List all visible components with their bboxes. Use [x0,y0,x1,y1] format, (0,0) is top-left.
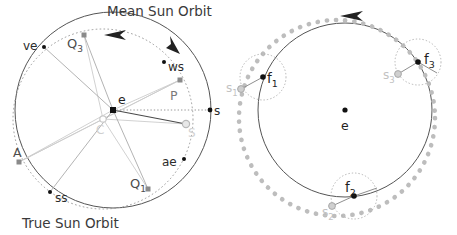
label-e-left: e [118,92,126,107]
label-s2-sub: 2 [328,212,333,222]
right-panel-group [238,11,441,219]
point-marker-s [208,108,213,113]
true-sun-dotted-path [239,20,435,216]
point-marker-ss [48,190,52,194]
mean-orbit-arrow-top [104,30,126,40]
point-marker-s1 [238,86,245,93]
label-e-right: e [341,118,349,133]
label-Q3: Q3 [67,36,83,54]
label-s1: s1 [226,81,238,98]
left-panel-group [13,12,212,209]
true-orbit-arrow-right [166,36,180,54]
label-C: C [96,123,104,137]
point-marker-e [110,107,116,113]
label-P: P [170,88,178,103]
label-f3: f3 [424,51,435,70]
point-marker-ws [162,60,166,64]
point-marker-f1 [260,74,266,80]
label-s3-sub: 3 [389,75,394,85]
point-marker-f3 [415,59,421,65]
label-S-left: S [188,126,196,140]
point-marker-ae [182,157,186,161]
point-marker-s2 [329,203,336,210]
label-s3: s3 [383,68,395,85]
label-s1-sub: 1 [232,88,237,98]
label-f3-sub: 3 [429,59,435,70]
label-ae: ae [162,155,177,169]
title-mean-sun-orbit: Mean Sun Orbit [107,3,212,19]
labels-group: Mean Sun Orbit True Sun Orbit ve ws ae s… [13,3,435,231]
point-marker-s3 [395,71,402,78]
label-ws: ws [168,60,184,74]
point-marker-ve [42,45,46,49]
label-Q1-sub: 1 [140,184,146,194]
astronomy-figure-svg: Mean Sun Orbit True Sun Orbit ve ws ae s… [0,0,457,235]
label-ss: ss [55,191,68,205]
point-marker-Q3 [82,33,87,38]
point-marker-e-right [342,107,347,112]
point-marker-A [17,160,22,165]
construction-lines-light [19,35,186,189]
point-marker-C [100,116,106,122]
label-f2-sub: 2 [350,187,356,198]
label-s-left: s [214,104,220,118]
epicycle-far-radius-lines [354,62,437,196]
label-Q3-sub: 3 [77,44,83,54]
label-Q1-base: Q [130,176,140,191]
label-A: A [13,145,22,160]
point-marker-P [178,78,183,83]
label-ve: ve [23,39,37,53]
title-true-sun-orbit: True Sun Orbit [21,215,119,231]
label-f1: f1 [267,70,278,89]
label-f1-sub: 1 [272,78,278,89]
figure-canvas: Mean Sun Orbit True Sun Orbit ve ws ae s… [0,0,457,235]
point-marker-Q1 [146,187,151,192]
label-f2: f2 [345,179,356,198]
label-Q3-base: Q [67,36,77,51]
